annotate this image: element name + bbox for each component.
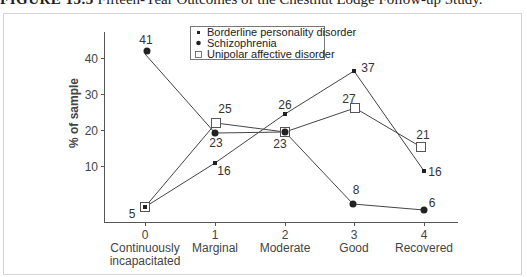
schizophrenia-markers [144, 48, 428, 214]
x-tick-labels: 0 Continuously incapacitated 1 Marginal … [110, 228, 453, 268]
legend-marker-schizophrenia [196, 41, 201, 46]
x-tick-3-number: 3 [351, 228, 358, 242]
borderline-marker-0 [143, 205, 147, 209]
label-scz-0: 41 [139, 33, 153, 47]
x-tick-1-number: 1 [212, 228, 219, 242]
label-scz-3: 8 [353, 183, 360, 197]
label-bpd-2: 26 [278, 98, 292, 112]
schizophrenia-marker-3 [350, 201, 357, 208]
schizophrenia-marker-2 [282, 129, 289, 136]
y-tick-10: 10 [85, 160, 99, 174]
label-scz-2: 23 [273, 137, 287, 151]
x-tick-4-label: Recovered [395, 241, 453, 255]
x-tick-0-label-line2: incapacitated [110, 254, 181, 268]
x-tick-0-number: 0 [142, 228, 149, 242]
label-uni-3: 27 [342, 92, 356, 106]
y-tick-30: 30 [85, 88, 99, 102]
y-tick-20: 20 [85, 124, 99, 138]
x-tick-2-number: 2 [282, 228, 289, 242]
label-uni-0: 5 [129, 207, 136, 221]
axes [101, 32, 458, 226]
x-tick-4-number: 4 [421, 228, 428, 242]
x-tick-0-label-line1: Continuously [110, 241, 179, 255]
legend-marker-borderline [197, 31, 200, 34]
schizophrenia-marker-4 [421, 207, 428, 214]
legend: Borderline personality disorder Schizoph… [191, 26, 357, 60]
label-uni-1: 25 [218, 102, 232, 116]
y-tick-40: 40 [85, 52, 99, 66]
schizophrenia-marker-0 [144, 48, 151, 55]
x-tick-3-label: Good [339, 241, 368, 255]
label-uni-4: 21 [416, 128, 430, 142]
label-scz-1: 23 [209, 136, 223, 150]
label-bpd-3: 37 [361, 61, 375, 75]
x-tick-2-label: Moderate [260, 241, 311, 255]
y-axis-label: % of sample [67, 78, 81, 148]
label-bpd-4: 16 [428, 165, 442, 179]
borderline-marker-3 [352, 69, 356, 73]
label-scz-4: 6 [429, 196, 436, 210]
legend-item-unipolar: Unipolar affective disorder [207, 48, 335, 60]
series-line-unipolar [145, 108, 421, 207]
legend-marker-unipolar [196, 52, 202, 58]
unipolar-marker-4 [417, 143, 426, 152]
y-tick-labels: 40 30 20 10 [85, 52, 99, 174]
borderline-marker-2 [283, 112, 287, 116]
x-tick-1-label: Marginal [192, 241, 238, 255]
line-chart: 40 30 20 10 % of sample 0 Continuously i… [0, 0, 527, 277]
unipolar-marker-1 [212, 119, 221, 128]
unipolar-markers [141, 104, 426, 212]
label-bpd-1: 16 [217, 164, 231, 178]
borderline-marker-4 [422, 169, 426, 173]
